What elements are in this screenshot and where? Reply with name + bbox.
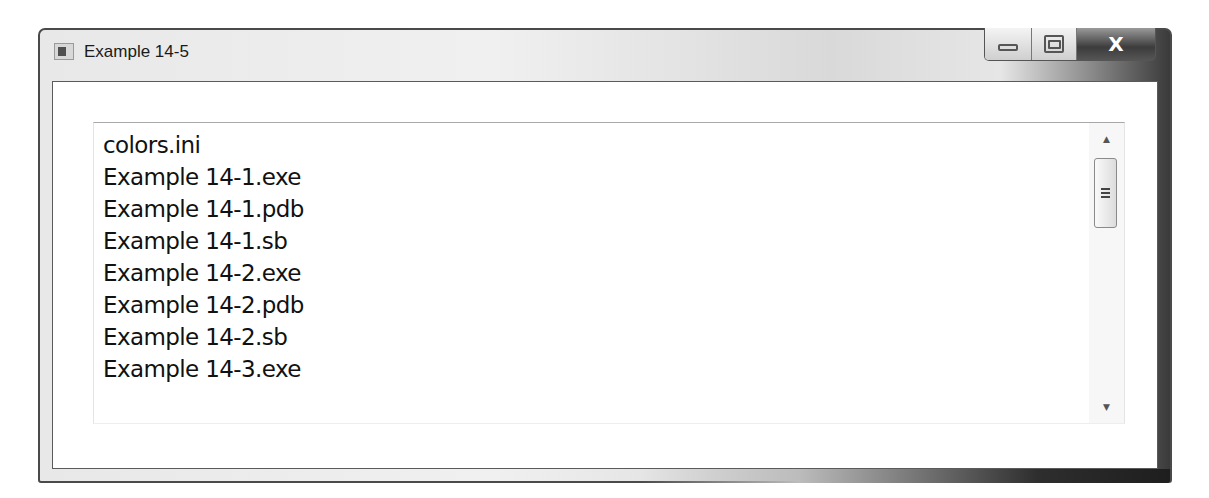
title-bar[interactable]: Example 14-5 X [40,30,1170,80]
list-item[interactable]: Example 14-2.pdb [103,289,1084,321]
caption-buttons: X [984,28,1156,61]
file-listbox[interactable]: colors.ini Example 14-1.exe Example 14-1… [93,122,1125,424]
close-icon: X [1108,32,1123,56]
client-area: colors.ini Example 14-1.exe Example 14-1… [52,81,1158,469]
list-item[interactable]: Example 14-1.pdb [103,193,1084,225]
scroll-down-button[interactable]: ▼ [1089,393,1124,421]
list-item[interactable]: Example 14-1.exe [103,161,1084,193]
list-item[interactable]: Example 14-3.exe [103,353,1084,385]
file-list: colors.ini Example 14-1.exe Example 14-1… [103,129,1084,385]
arrow-down-icon: ▼ [1103,402,1110,412]
app-window: Example 14-5 X colors.ini Example 14-1.e… [38,28,1172,483]
list-item[interactable]: Example 14-1.sb [103,225,1084,257]
maximize-button[interactable] [1032,28,1077,60]
list-item[interactable]: Example 14-2.exe [103,257,1084,289]
minimize-icon [998,44,1018,51]
list-item[interactable]: colors.ini [103,129,1084,161]
grip-icon [1101,188,1110,198]
minimize-button[interactable] [985,28,1032,60]
vertical-scrollbar[interactable]: ▲ ▼ [1089,123,1124,423]
scrollbar-thumb[interactable] [1094,158,1117,228]
close-button[interactable]: X [1077,28,1155,60]
maximize-icon [1044,35,1064,53]
application-icon[interactable] [54,43,74,60]
window-title: Example 14-5 [84,42,189,62]
arrow-up-icon: ▲ [1103,134,1110,144]
list-item[interactable]: Example 14-2.sb [103,321,1084,353]
scroll-up-button[interactable]: ▲ [1089,125,1124,153]
